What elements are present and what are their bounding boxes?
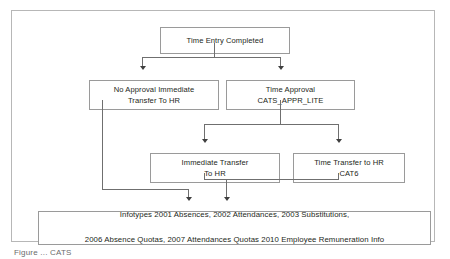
connector-row3-bus-left-drop: [204, 124, 205, 139]
connector-top-bus: [142, 57, 281, 58]
connector-no-approval-stem: [102, 100, 103, 189]
figure-caption: Figure ... CATS: [14, 248, 72, 257]
connector-row3-merge-drop: [226, 179, 227, 197]
connector-top-bus-right-drop: [280, 57, 281, 66]
node-immediate-transfer-to-hr-label: Immediate Transfer To HR: [182, 157, 249, 179]
figure-frame: Time Entry Completed No Approval Immedia…: [11, 10, 435, 242]
arrow-into-infotypes-right: [224, 197, 230, 201]
node-time-transfer-to-hr-cat6-label: Time Transfer to HR CAT6: [314, 157, 384, 179]
connector-no-approval-route: [102, 189, 188, 190]
connector-row3-merge-bus: [204, 179, 339, 180]
connector-row3-bus-right-drop: [338, 124, 339, 139]
figure-screenshot: Time Entry Completed No Approval Immedia…: [0, 0, 450, 259]
arrow-into-time-approval: [278, 66, 284, 70]
node-time-approval-cats-appr-lite-label: Time Approval CATS_APPR_LITE: [258, 84, 324, 106]
infotypes-line-2: 2006 Absence Quotas, 2007 Attendances Qu…: [85, 234, 385, 247]
arrow-into-immediate-transfer: [202, 139, 208, 143]
connector-top-stem: [214, 43, 215, 58]
arrow-into-infotypes-left: [186, 197, 192, 201]
infotypes-line-1: Infotypes 2001 Absences, 2002 Attendance…: [85, 209, 385, 222]
arrow-into-time-transfer-cat6: [336, 139, 342, 143]
connector-top-bus-left-drop: [142, 57, 143, 66]
node-no-approval-immediate-transfer-label: No Approval Immediate Transfer To HR: [114, 84, 195, 106]
connector-row3-bus: [204, 124, 339, 125]
node-time-entry-completed[interactable]: Time Entry Completed: [160, 27, 290, 54]
connector-time-approval-stem: [280, 100, 281, 124]
arrow-into-no-approval: [140, 66, 146, 70]
node-time-entry-completed-label: Time Entry Completed: [187, 35, 264, 46]
node-infotypes-list[interactable]: Infotypes 2001 Absences, 2002 Attendance…: [38, 211, 431, 245]
node-no-approval-immediate-transfer[interactable]: No Approval Immediate Transfer To HR: [89, 80, 219, 110]
node-time-approval-cats-appr-lite[interactable]: Time Approval CATS_APPR_LITE: [226, 80, 355, 110]
connector-no-approval-drop: [188, 189, 189, 197]
node-infotypes-list-label: Infotypes 2001 Absences, 2002 Attendance…: [85, 209, 385, 248]
